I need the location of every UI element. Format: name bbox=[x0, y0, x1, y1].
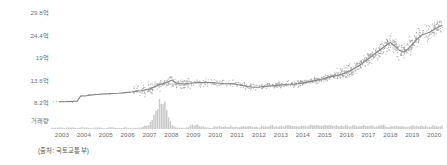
volume-bar bbox=[265, 126, 266, 129]
scatter-point bbox=[408, 50, 409, 51]
scatter-point bbox=[398, 57, 399, 58]
scatter-point bbox=[168, 84, 169, 85]
volume-bar bbox=[390, 126, 391, 129]
x-axis-year-labels: 2003200420052006200720082009201020112012… bbox=[0, 131, 447, 143]
scatter-point bbox=[409, 40, 410, 41]
volume-bar bbox=[336, 125, 337, 129]
scatter-point bbox=[404, 57, 405, 58]
scatter-point bbox=[371, 59, 372, 60]
scatter-point bbox=[314, 82, 315, 83]
scatter-point bbox=[175, 78, 176, 79]
scatter-point bbox=[143, 88, 144, 89]
x-axis-tick-label: 2009 bbox=[186, 131, 200, 138]
scatter-point bbox=[297, 87, 298, 88]
scatter-point bbox=[353, 66, 354, 67]
scatter-point bbox=[390, 47, 391, 48]
scatter-point bbox=[346, 77, 347, 78]
scatter-point bbox=[295, 86, 296, 87]
scatter-point bbox=[178, 80, 179, 81]
volume-bar bbox=[235, 127, 236, 129]
volume-bar bbox=[228, 127, 229, 129]
scatter-point bbox=[420, 32, 421, 33]
volume-bar bbox=[348, 126, 349, 129]
volume-bar bbox=[432, 125, 433, 129]
volume-bar bbox=[277, 127, 278, 129]
volume-bar bbox=[239, 127, 240, 129]
scatter-point bbox=[269, 83, 270, 84]
chart-container: 29.8억24.4억19억13.6억8.2억거래량 20032004200520… bbox=[0, 0, 447, 165]
scatter-point bbox=[226, 81, 227, 82]
x-axis-tick-label: 2013 bbox=[274, 131, 288, 138]
scatter-point bbox=[179, 85, 180, 86]
scatter-point bbox=[344, 70, 345, 71]
scatter-point bbox=[219, 80, 220, 81]
scatter-point bbox=[300, 85, 301, 86]
volume-bar bbox=[53, 128, 54, 129]
scatter-point bbox=[344, 68, 345, 69]
scatter-point bbox=[393, 48, 394, 49]
volume-bar bbox=[192, 125, 193, 129]
volume-bar bbox=[427, 127, 428, 129]
scatter-point bbox=[419, 39, 420, 40]
volume-bar bbox=[244, 127, 245, 129]
scatter-point bbox=[383, 45, 384, 46]
volume-bar bbox=[330, 125, 331, 129]
scatter-point bbox=[139, 92, 140, 93]
scatter-point bbox=[395, 44, 396, 45]
volume-bar bbox=[383, 125, 384, 129]
volume-bar bbox=[60, 127, 61, 129]
scatter-point bbox=[310, 79, 311, 80]
volume-bar bbox=[394, 126, 395, 129]
scatter-point bbox=[412, 47, 413, 48]
scatter-point bbox=[353, 72, 354, 73]
scatter-point bbox=[180, 87, 181, 88]
scatter-point bbox=[235, 82, 236, 83]
volume-bar bbox=[290, 126, 291, 129]
volume-bar bbox=[203, 126, 204, 129]
volume-bar bbox=[416, 126, 417, 129]
scatter-point bbox=[242, 83, 243, 84]
scatter-point bbox=[246, 87, 247, 88]
volume-bar bbox=[135, 128, 136, 129]
scatter-point bbox=[170, 84, 171, 85]
scatter-point bbox=[428, 35, 429, 36]
scatter-point bbox=[396, 45, 397, 46]
volume-bar bbox=[328, 125, 329, 129]
scatter-point bbox=[136, 88, 137, 89]
scatter-point bbox=[303, 83, 304, 84]
scatter-point bbox=[340, 72, 341, 73]
volume-bar bbox=[108, 127, 109, 129]
scatter-point bbox=[416, 32, 417, 33]
scatter-point bbox=[351, 67, 352, 68]
x-axis-tick-label: 2011 bbox=[230, 131, 244, 138]
volume-bar bbox=[126, 128, 127, 129]
scatter-point bbox=[325, 75, 326, 76]
volume-bar bbox=[172, 125, 173, 129]
scatter-point bbox=[359, 61, 360, 62]
scatter-point bbox=[232, 80, 233, 81]
volume-bar bbox=[326, 126, 327, 129]
volume-bar bbox=[367, 126, 368, 129]
volume-bar bbox=[212, 128, 213, 129]
scatter-point bbox=[150, 92, 151, 93]
scatter-point bbox=[245, 88, 246, 89]
x-axis-tick-label: 2012 bbox=[252, 131, 266, 138]
scatter-point bbox=[141, 89, 142, 90]
scatter-point bbox=[243, 87, 244, 88]
volume-bar bbox=[419, 126, 420, 129]
scatter-point bbox=[407, 52, 408, 53]
scatter-point bbox=[343, 76, 344, 77]
scatter-point bbox=[426, 30, 427, 31]
volume-bar bbox=[275, 126, 276, 129]
volume-bar bbox=[168, 118, 169, 129]
scatter-point bbox=[367, 64, 368, 65]
scatter-point bbox=[298, 86, 299, 87]
scatter-point bbox=[433, 32, 434, 33]
volume-bar bbox=[405, 127, 406, 129]
scatter-point bbox=[395, 49, 396, 50]
volume-bar bbox=[303, 126, 304, 129]
x-axis-tick-label: 2018 bbox=[383, 131, 397, 138]
scatter-point bbox=[166, 85, 167, 86]
volume-bar bbox=[133, 128, 134, 129]
scatter-point bbox=[152, 92, 153, 93]
